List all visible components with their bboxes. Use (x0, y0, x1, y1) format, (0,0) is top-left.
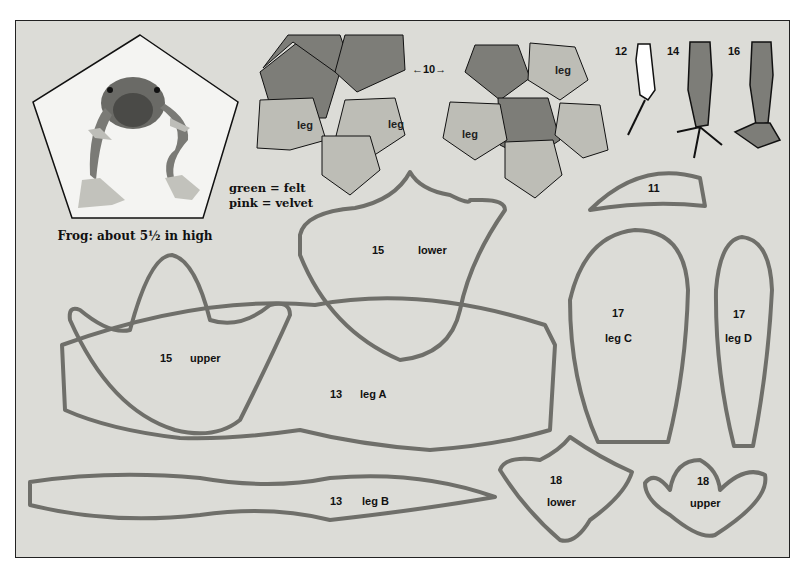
label-15-upper-num: 15 (160, 352, 172, 364)
label-15-lower-name: lower (418, 244, 447, 256)
label-15-lower-num: 15 (372, 244, 384, 256)
label-13a-name: leg A (360, 388, 387, 400)
piece-13-leg-b (30, 475, 495, 520)
label-13b-num: 13 (330, 495, 342, 507)
legend-velvet: pink = velvet (229, 196, 314, 210)
frog-photo (33, 35, 238, 218)
label-13a-num: 13 (330, 388, 342, 400)
label-17c-num: 17 (612, 307, 624, 319)
piece-18-lower (500, 437, 632, 541)
piece-15-upper (70, 255, 290, 433)
pattern-diagram: Frog: about 5½ in high green = felt pink… (0, 0, 805, 568)
photo-caption: Frog: about 5½ in high (57, 229, 212, 243)
label-13b-name: leg B (362, 495, 389, 507)
label-11: 11 (648, 182, 660, 194)
label-leg: leg (388, 118, 404, 130)
piece-16 (750, 42, 773, 125)
piece-12 (636, 44, 655, 100)
piece-15-lower (300, 172, 505, 360)
label-leg: leg (297, 119, 313, 131)
label-16: 16 (728, 45, 740, 57)
piece-10-arrow: ←10→ (412, 63, 446, 75)
label-14: 14 (667, 45, 680, 57)
label-12: 12 (615, 45, 627, 57)
label-leg: leg (555, 64, 571, 76)
label-18l-name: lower (547, 496, 576, 508)
label-17c-name: leg C (605, 332, 632, 344)
label-18u-name: upper (690, 497, 721, 509)
label-18l-num: 18 (550, 474, 562, 486)
label-17d-num: 17 (733, 308, 745, 320)
legend-felt: green = felt (229, 181, 306, 195)
piece-13-leg-a (62, 298, 555, 450)
piece-14 (688, 42, 712, 127)
label-leg: leg (462, 128, 478, 140)
label-18u-num: 18 (697, 475, 709, 487)
label-15-upper-name: upper (190, 352, 221, 364)
piece-10-left (257, 35, 405, 195)
piece-10-right (443, 43, 608, 198)
label-17d-name: leg D (725, 332, 752, 344)
